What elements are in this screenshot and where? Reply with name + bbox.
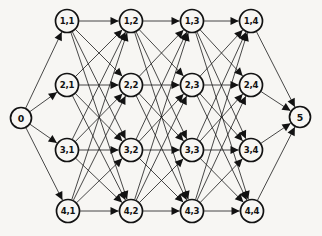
node-label: 2,2: [124, 80, 139, 90]
node-label: 5: [297, 112, 303, 123]
graph-node-n-1-2[interactable]: 1,2: [120, 10, 143, 33]
arrowhead-icon: [172, 146, 180, 154]
node-label: 3,4: [244, 145, 259, 155]
graph-edge: [26, 32, 62, 108]
node-label: 0: [18, 113, 25, 124]
graph-edge: [26, 128, 62, 200]
graph-node-n-3-3[interactable]: 3,3: [181, 139, 204, 162]
graph-node-n-1-1[interactable]: 1,1: [56, 10, 79, 33]
arrowhead-icon: [231, 146, 239, 154]
arrowhead-icon: [48, 135, 57, 143]
node-label: 3,2: [124, 145, 139, 155]
graph-node-source[interactable]: 0: [11, 108, 32, 129]
edges-layer: [26, 21, 295, 211]
node-label: 2,3: [185, 80, 200, 90]
graph-node-n-2-4[interactable]: 2,4: [240, 74, 263, 97]
node-label: 4,1: [61, 206, 76, 216]
arrowhead-icon: [111, 17, 119, 25]
node-label: 1,4: [244, 16, 259, 26]
arrowhead-icon: [48, 92, 57, 100]
graph-node-sink[interactable]: 5: [290, 107, 311, 128]
node-label: 4,4: [245, 206, 260, 216]
node-label: 1,3: [185, 16, 200, 26]
graph-node-n-2-1[interactable]: 2,1: [56, 74, 79, 97]
graph-edge: [257, 32, 295, 107]
graph-node-n-4-4[interactable]: 4,4: [241, 200, 264, 223]
node-label: 4,2: [124, 206, 139, 216]
arrowhead-icon: [111, 81, 119, 89]
graph-node-n-4-2[interactable]: 4,2: [120, 200, 143, 223]
graph-node-n-1-4[interactable]: 1,4: [240, 10, 263, 33]
node-label: 2,1: [60, 80, 75, 90]
layered-graph-figure: 01,12,13,14,11,22,23,24,21,32,33,34,31,4…: [0, 0, 322, 236]
arrowhead-icon: [172, 17, 180, 25]
arrowhead-icon: [111, 146, 119, 154]
arrowhead-icon: [172, 207, 180, 215]
arrowhead-icon: [111, 207, 119, 215]
arrowhead-icon: [281, 103, 290, 111]
graph-node-n-3-1[interactable]: 3,1: [56, 139, 79, 162]
graph-node-n-2-3[interactable]: 2,3: [181, 74, 204, 97]
graph-node-n-3-4[interactable]: 3,4: [240, 139, 263, 162]
node-label: 3,1: [60, 145, 75, 155]
node-label: 3,3: [185, 145, 200, 155]
arrowhead-icon: [231, 81, 239, 89]
node-label: 2,4: [244, 80, 259, 90]
graph-node-n-1-3[interactable]: 1,3: [181, 10, 204, 33]
arrowhead-icon: [172, 81, 180, 89]
graph-edge: [258, 127, 295, 200]
graph-canvas: 01,12,13,14,11,22,23,24,21,32,33,34,31,4…: [0, 0, 322, 236]
arrowhead-icon: [232, 207, 240, 215]
graph-node-n-2-2[interactable]: 2,2: [120, 74, 143, 97]
node-label: 1,1: [60, 16, 75, 26]
node-label: 4,3: [185, 206, 200, 216]
arrowhead-icon: [231, 17, 239, 25]
arrowheads-layer: [48, 17, 295, 215]
graph-node-n-4-3[interactable]: 4,3: [181, 200, 204, 223]
node-label: 1,2: [124, 16, 139, 26]
graph-node-n-4-1[interactable]: 4,1: [57, 200, 80, 223]
graph-node-n-3-2[interactable]: 3,2: [120, 139, 143, 162]
arrowhead-icon: [282, 123, 291, 131]
